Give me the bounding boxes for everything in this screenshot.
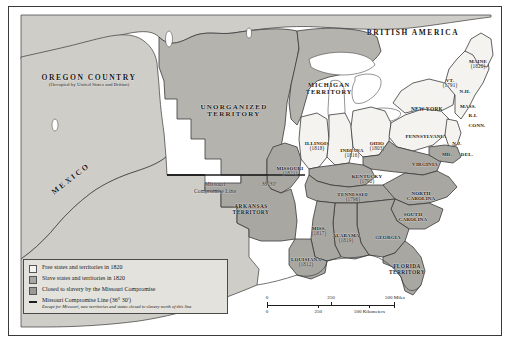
missouri-compromise-map: OREGON COUNTRY (Occupied by United State… <box>0 0 512 344</box>
state-illinois-area <box>299 113 329 169</box>
legend-label-compromise-line-text: Missouri Compromise Line (36° 30') <box>42 297 131 303</box>
legend-label-free-states: Free states and territories in 1820 <box>42 264 122 271</box>
scalebar-kilometers-labels: 0 250 500 Kilometers <box>267 309 395 316</box>
great-salt-lake <box>52 119 58 131</box>
legend-item-closed-to-slavery: Closed to slavery by the Missouri Compro… <box>29 286 222 295</box>
scalebar-miles-500: 500 Miles <box>385 295 405 300</box>
legend-item-free-states: Free states and territories in 1820 <box>29 264 222 273</box>
scalebar-miles-250: 250 <box>327 295 335 300</box>
scalebar-tick-km-500 <box>369 305 370 308</box>
scalebar-miles-0: 0 <box>266 295 269 300</box>
legend-item-slave-states: Slave states and territories in 1820 <box>29 275 222 284</box>
scalebar-miles-labels: 0 250 500 Miles <box>267 295 395 302</box>
scalebar-rule <box>267 302 395 308</box>
legend-item-compromise-line: Missouri Compromise Line (36° 30') Excep… <box>29 297 222 309</box>
inland-lake-small <box>247 28 252 38</box>
map-legend: Free states and territories in 1820 Slav… <box>23 259 228 314</box>
legend-label-closed-to-slavery: Closed to slavery by the Missouri Compro… <box>42 286 155 293</box>
legend-swatch-closed-to-slavery <box>29 287 37 295</box>
lake-winnipeg <box>166 31 173 47</box>
scalebar-km-250: 250 <box>314 309 322 314</box>
legend-swatch-compromise-line <box>29 298 37 306</box>
legend-label-slave-states: Slave states and territories in 1820 <box>42 275 125 282</box>
legend-swatch-slave-states <box>29 276 37 284</box>
scalebar-tick-km-250 <box>318 305 319 308</box>
legend-label-compromise-line: Missouri Compromise Line (36° 30') Excep… <box>42 297 191 309</box>
scalebar-km-500: 500 Kilometers <box>354 309 385 314</box>
scalebar-tick-miles-250 <box>331 302 332 305</box>
legend-swatch-free-states <box>29 265 37 273</box>
state-indiana-area <box>327 113 353 165</box>
legend-note-compromise-line: Except for Missouri, new territories and… <box>42 304 191 309</box>
map-frame: OREGON COUNTRY (Occupied by United State… <box>8 6 502 336</box>
map-scalebar: 0 250 500 Miles 0 250 500 Kilometers <box>267 295 395 316</box>
scalebar-km-0: 0 <box>266 309 269 314</box>
